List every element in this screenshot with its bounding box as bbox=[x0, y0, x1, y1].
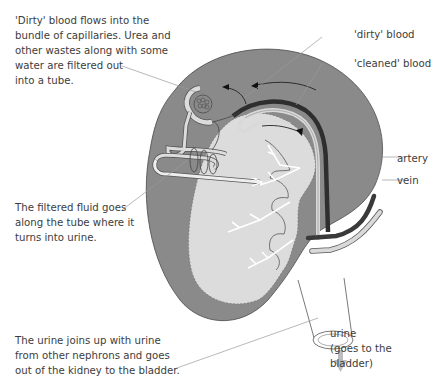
annotation-urine-joins: The urine joins up with urine from other… bbox=[15, 333, 180, 378]
label-urine-destination: (goes to the bladder) bbox=[330, 341, 434, 371]
label-vein: vein bbox=[397, 173, 419, 188]
label-cleaned-blood: 'cleaned' blood bbox=[354, 56, 431, 71]
label-dirty-blood: 'dirty' blood bbox=[354, 27, 415, 42]
annotation-filtered-fluid: The filtered fluid goes along the tube w… bbox=[15, 200, 134, 245]
label-urine: urine bbox=[330, 326, 356, 341]
label-artery: artery bbox=[397, 151, 428, 166]
annotation-dirty-blood-inflow: 'Dirty' blood flows into the bundle of c… bbox=[15, 13, 171, 88]
